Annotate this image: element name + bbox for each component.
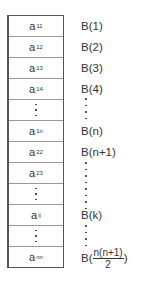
cell-a23: a23 — [9, 163, 63, 184]
cell-aij: aij — [9, 205, 63, 226]
label-b3: B(3) — [81, 57, 103, 78]
cell-ann: ann — [9, 247, 63, 267]
ellipsis-cell — [9, 184, 63, 205]
cell-a13: a13 — [9, 58, 63, 79]
label-b1: B(1) — [81, 15, 103, 36]
matrix-storage-table: a11 a12 a13 a14 a1n a22 a23 aij ann — [7, 15, 64, 268]
label-b2: B(2) — [81, 36, 103, 57]
cell-a11: a11 — [9, 16, 63, 37]
ellipsis-cell — [9, 226, 63, 247]
ellipsis-vertical — [85, 98, 87, 119]
cell-a14: a14 — [9, 79, 63, 100]
label-bk: B(k) — [81, 204, 102, 225]
label-bn1: B(n+1) — [81, 141, 116, 162]
label-blast: B( n(n+1) 2 ) — [81, 246, 128, 270]
cell-a12: a12 — [9, 37, 63, 58]
cell-a1n: a1n — [9, 121, 63, 142]
ellipsis-cell — [9, 100, 63, 121]
ellipsis-vertical — [85, 162, 87, 209]
label-b4: B(4) — [81, 78, 103, 99]
fraction: n(n+1) 2 — [93, 247, 124, 270]
ellipsis-vertical — [85, 225, 87, 246]
label-bn: B(n) — [81, 120, 103, 141]
cell-a22: a22 — [9, 142, 63, 163]
